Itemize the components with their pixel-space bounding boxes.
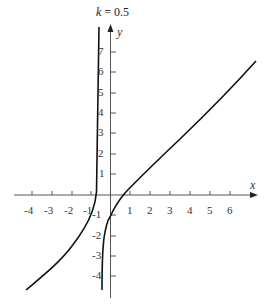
x-tick-label: 6 bbox=[227, 205, 233, 216]
x-axis-label: x bbox=[250, 178, 255, 193]
y-axis-arrow-icon bbox=[108, 24, 114, 32]
x-tick-label: 2 bbox=[147, 205, 153, 216]
y-tick-label: 4 bbox=[98, 107, 104, 118]
y-tick-label: -4 bbox=[92, 270, 101, 281]
y-axis-label: y bbox=[117, 25, 122, 40]
x-tick-label: -2 bbox=[64, 205, 73, 216]
y-tick-label: 3 bbox=[98, 127, 104, 138]
y-tick-label: 5 bbox=[98, 87, 104, 98]
y-tick-label: 7 bbox=[98, 46, 104, 57]
x-tick-label: 3 bbox=[167, 205, 173, 216]
x-tick-label: -3 bbox=[44, 205, 53, 216]
curve-left-branch bbox=[26, 27, 99, 290]
y-tick-label: 6 bbox=[98, 66, 104, 77]
x-tick-label: -4 bbox=[24, 205, 33, 216]
x-tick-label: -1 bbox=[83, 205, 92, 216]
y-tick-label: 2 bbox=[98, 148, 104, 159]
chart-title: k = 0.5 bbox=[96, 5, 129, 20]
y-tick-label: -3 bbox=[92, 250, 101, 261]
chart-canvas bbox=[0, 0, 277, 308]
x-tick-label: 1 bbox=[127, 205, 133, 216]
y-tick-label: -1 bbox=[92, 209, 101, 220]
y-tick-label: 1 bbox=[99, 168, 105, 179]
x-ticks bbox=[32, 191, 230, 195]
x-tick-label: 4 bbox=[187, 205, 193, 216]
curve-right-branch bbox=[102, 61, 256, 290]
x-tick-label: 5 bbox=[207, 205, 213, 216]
y-tick-label: -2 bbox=[92, 230, 101, 241]
